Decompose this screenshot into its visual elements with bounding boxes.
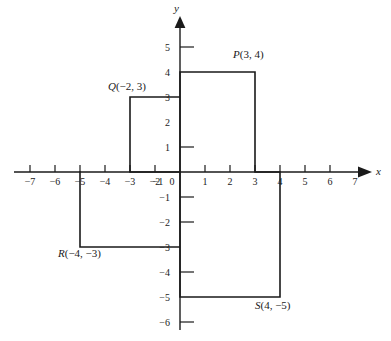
x-tick-label-4: 4: [274, 176, 286, 187]
x-tick-label-minus5: −5: [72, 176, 88, 187]
y-tick-label-minus2: −2: [150, 217, 170, 228]
y-tick-label-3: 3: [156, 92, 170, 103]
point-label-p-name: P: [233, 48, 240, 60]
x-axis-label: x: [376, 165, 381, 177]
x-tick-label-minus7: −7: [22, 176, 38, 187]
x-tick-label-7: 7: [349, 176, 361, 187]
x-tick-label-minus4: −4: [97, 176, 113, 187]
y-tick-label-minus3: −3: [150, 242, 170, 253]
y-tick-label-minus5: −5: [150, 292, 170, 303]
x-tick-label-minus6: −6: [47, 176, 63, 187]
point-label-q-name: Q: [108, 80, 116, 92]
point-label-q: Q(−2, 3): [108, 80, 146, 92]
point-label-s: S(4, −5): [255, 299, 291, 311]
x-tick-label-5: 5: [299, 176, 311, 187]
y-tick-label-1: 1: [156, 142, 170, 153]
y-tick-label-5: 5: [156, 42, 170, 53]
x-tick-label-2: 2: [224, 176, 236, 187]
y-tick-label-minus4: −4: [150, 267, 170, 278]
point-label-r-name: R: [58, 247, 65, 259]
y-axis-arrowhead: [175, 16, 186, 28]
x-tick-label-1: 1: [199, 176, 211, 187]
x-tick-label-3: 3: [249, 176, 261, 187]
x-tick-label-zero: 0: [166, 176, 178, 187]
point-label-r-coords: (−4, −3): [65, 247, 101, 259]
point-label-p: P(3, 4): [233, 48, 264, 60]
x-tick-label-6: 6: [324, 176, 336, 187]
point-label-s-coords: (4, −5): [261, 299, 291, 311]
x-tick-label-minus3: −3: [122, 176, 138, 187]
y-axis-label: y: [174, 2, 179, 14]
coordinate-plane-diagram: [0, 0, 391, 341]
y-tick-label-minus1: −1: [150, 192, 170, 203]
y-axis-ticks: [180, 47, 194, 322]
y-tick-label-minus6: −6: [150, 317, 170, 328]
y-tick-label-4: 4: [156, 67, 170, 78]
y-tick-label-2: 2: [156, 117, 170, 128]
x-tick-label-minus1: −1: [150, 176, 166, 187]
point-label-q-coords: (−2, 3): [116, 80, 146, 92]
point-label-r: R(−4, −3): [58, 247, 101, 259]
point-label-p-coords: (3, 4): [240, 48, 264, 60]
